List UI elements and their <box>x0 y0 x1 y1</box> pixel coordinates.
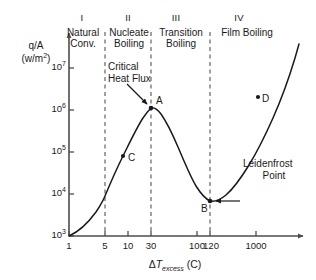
annotation-line1: Critical <box>108 61 168 73</box>
region-numeral-iii: III <box>156 13 196 24</box>
region-label-line2: Boiling <box>153 38 209 49</box>
region-label-film-boiling: Film Boiling <box>211 27 283 38</box>
x-axis-title-delta: Δ <box>149 258 156 270</box>
region-label-transition-boiling: Transition Boiling <box>153 27 209 49</box>
data-point-d <box>256 95 260 99</box>
y-tick-exponent: 3 <box>62 228 66 235</box>
data-point-label-a: A <box>156 95 170 106</box>
x-tick-label-10: 10 <box>118 241 138 252</box>
region-label-line1: Nucleate <box>107 27 151 38</box>
region-numeral-i: I <box>62 13 102 24</box>
y-tick-exponent: 4 <box>62 186 66 193</box>
y-tick-label-1e3: 103 <box>30 230 66 241</box>
annotation-line2: Point <box>243 170 305 182</box>
region-label-line1: Natural <box>60 27 106 38</box>
boiling-curve-path <box>69 44 299 236</box>
x-axis-title-subscript: excess <box>162 265 184 272</box>
y-tick-mantissa: 10 <box>52 229 63 240</box>
region-label-natural-convection: Natural Conv. <box>60 27 106 49</box>
y-tick-label-1e4: 104 <box>30 188 66 199</box>
x-tick-label-120: 120 <box>199 241 223 252</box>
annotation-line1: Leidenfrost <box>243 158 313 170</box>
region-label-line1: Film Boiling <box>211 27 283 38</box>
y-tick-exponent: 7 <box>62 60 66 67</box>
annotation-critical-heat-flux: Critical Heat Flux <box>108 61 168 85</box>
x-axis-title-unit-text: (C) <box>187 258 202 270</box>
annotation-leidenfrost-point: Leidenfrost Point <box>243 158 313 182</box>
annotation-line2: Heat Flux <box>108 73 168 85</box>
data-point-a <box>149 106 154 111</box>
region-label-line2: Boiling <box>107 38 151 49</box>
region-label-line2: Conv. <box>60 38 106 49</box>
data-point-label-b: B <box>201 203 215 214</box>
x-tick-label-1000: 1000 <box>242 241 270 252</box>
data-point-c <box>121 154 125 158</box>
y-tick-exponent: 5 <box>62 144 66 151</box>
y-tick-label-1e7: 107 <box>30 62 66 73</box>
y-axis-title-line1: q/A <box>8 40 64 53</box>
y-tick-mantissa: 10 <box>52 145 63 156</box>
data-point-label-c: C <box>128 152 142 163</box>
region-numeral-iv: IV <box>219 13 259 24</box>
y-tick-mantissa: 10 <box>52 61 63 72</box>
data-points <box>121 95 260 203</box>
x-tick-label-30: 30 <box>141 241 161 252</box>
x-axis-title: ΔTexcess (C) <box>125 259 225 271</box>
y-tick-label-1e6: 106 <box>30 104 66 115</box>
region-label-nucleate-boiling: Nucleate Boiling <box>107 27 151 49</box>
y-tick-mantissa: 10 <box>52 103 63 114</box>
region-numeral-ii: II <box>108 13 148 24</box>
chf-arrow <box>127 84 147 104</box>
x-tick-label-5: 5 <box>95 241 115 252</box>
data-point-label-d: D <box>262 93 276 104</box>
y-tick-label-1e5: 105 <box>30 146 66 157</box>
x-tick-label-1: 1 <box>59 241 79 252</box>
boiling-curve-figure: I II III IV Natural Conv. Nucleate Boili… <box>0 0 316 280</box>
y-tick-exponent: 6 <box>62 102 66 109</box>
y-tick-mantissa: 10 <box>52 187 63 198</box>
region-label-line1: Transition <box>153 27 209 38</box>
